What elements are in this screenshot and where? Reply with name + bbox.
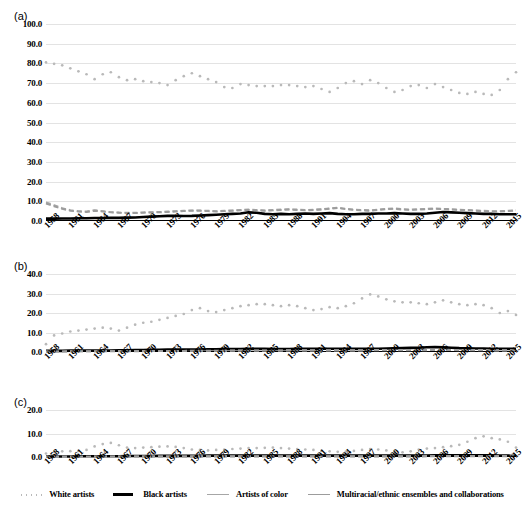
legend-label: Artists of color xyxy=(236,489,288,499)
panel-b-plot: 0.010.020.030.040.0 19581961196419671970… xyxy=(0,274,522,390)
panel-c-plot: 0.010.020.0 1958196119641967197019731976… xyxy=(0,410,522,491)
legend-swatch-icon xyxy=(112,490,138,499)
legend-item[interactable]: Multiracial/ethnic ensembles and collabo… xyxy=(306,489,504,499)
y-tick-label: 10.0 xyxy=(27,328,42,338)
y-tick-label: 30.0 xyxy=(27,157,42,167)
legend-swatch-icon xyxy=(306,490,332,499)
panel-c-y-axis: 0.010.020.0 xyxy=(0,410,44,457)
y-tick-label: 90.0 xyxy=(27,39,42,49)
y-tick-label: 50.0 xyxy=(27,118,42,128)
legend-swatch-icon xyxy=(18,490,44,499)
legend-label: Multiracial/ethnic ensembles and collabo… xyxy=(337,489,504,499)
series-white-artists-dots xyxy=(45,61,518,96)
legend-item[interactable]: Artists of color xyxy=(205,489,288,499)
panel-b-label: (b) xyxy=(14,260,27,272)
panel-a-y-axis: 0.010.020.030.040.050.060.070.080.090.01… xyxy=(0,24,44,221)
panel-a-plot: 0.010.020.030.040.050.060.070.080.090.01… xyxy=(0,24,522,260)
panel-a-plot-area xyxy=(46,24,516,221)
legend-item[interactable]: Black artists xyxy=(112,489,187,499)
figure-root: (a) 0.010.020.030.040.050.060.070.080.09… xyxy=(0,0,522,513)
y-tick-label: 30.0 xyxy=(27,289,42,299)
y-tick-label: 80.0 xyxy=(27,58,42,68)
panel-b: (b) 0.010.020.030.040.0 1958196119641967… xyxy=(0,260,522,390)
y-tick-label: 20.0 xyxy=(27,405,42,415)
panel-c-label: (c) xyxy=(14,396,27,408)
y-tick-label: 60.0 xyxy=(27,98,42,108)
y-tick-label: 100.0 xyxy=(23,19,42,29)
series-layer xyxy=(46,24,516,221)
y-tick-label: 0.0 xyxy=(31,452,42,462)
legend-swatch-icon xyxy=(205,490,231,499)
y-tick-label: 10.0 xyxy=(27,429,42,439)
legend-item[interactable]: White artists xyxy=(18,489,94,499)
panel-b-plot-area xyxy=(46,274,516,352)
y-tick-label: 40.0 xyxy=(27,137,42,147)
panel-a-x-axis: 1958196119641967197019731976197919821985… xyxy=(46,223,516,257)
series-white-artists-dots xyxy=(45,293,518,345)
panel-a: (a) 0.010.020.030.040.050.060.070.080.09… xyxy=(0,10,522,260)
y-tick-label: 20.0 xyxy=(27,177,42,187)
y-tick-label: 10.0 xyxy=(27,196,42,206)
y-tick-label: 40.0 xyxy=(27,269,42,279)
y-tick-label: 70.0 xyxy=(27,78,42,88)
panel-b-x-axis: 1958196119641967197019731976197919821985… xyxy=(46,354,516,388)
panel-b-y-axis: 0.010.020.030.040.0 xyxy=(0,274,44,352)
chart-legend: White artistsBlack artistsArtists of col… xyxy=(0,487,522,501)
panel-c: (c) 0.010.020.0 195819611964196719701973… xyxy=(0,396,522,491)
y-tick-label: 0.0 xyxy=(31,216,42,226)
legend-label: White artists xyxy=(49,489,94,499)
series-layer xyxy=(46,274,516,352)
legend-label: Black artists xyxy=(143,489,187,499)
y-tick-label: 20.0 xyxy=(27,308,42,318)
y-tick-label: 0.0 xyxy=(31,347,42,357)
